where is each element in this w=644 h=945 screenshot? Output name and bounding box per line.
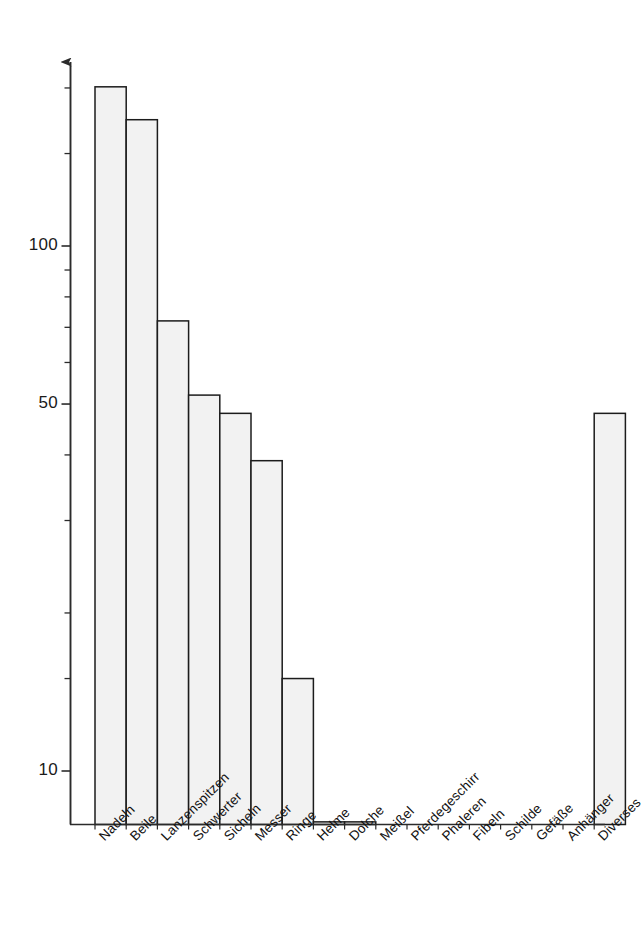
bar bbox=[126, 120, 157, 825]
bar bbox=[189, 395, 220, 824]
y-axis-tick-label: 50 bbox=[6, 393, 58, 413]
bar bbox=[251, 461, 282, 825]
bar bbox=[157, 321, 188, 825]
bar bbox=[594, 413, 625, 824]
y-axis-tick-label: 100 bbox=[6, 235, 58, 255]
bar bbox=[220, 413, 251, 824]
bar bbox=[95, 87, 126, 825]
bars-group bbox=[95, 87, 625, 825]
y-axis-ticks bbox=[62, 88, 71, 771]
y-axis-tick-label: 10 bbox=[6, 760, 58, 780]
